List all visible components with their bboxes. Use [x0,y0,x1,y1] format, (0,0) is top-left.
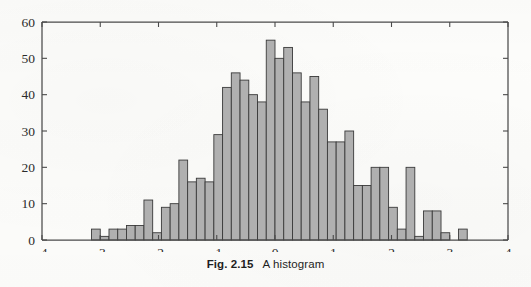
histogram-bar [362,186,371,241]
histogram-bar [92,229,101,240]
histogram-bar [327,142,336,240]
histogram-bar [144,200,153,240]
histogram-bars [92,40,468,240]
histogram-bar [319,109,328,240]
histogram-bar [223,87,232,240]
x-tick-label: 4 [505,245,512,252]
histogram-bar [214,135,223,240]
x-tick-label: -4 [36,245,47,252]
y-tick-label: 40 [22,87,36,102]
histogram-bar [170,204,179,240]
histogram-bar [135,225,144,240]
x-tick-label: 1 [330,245,337,252]
histogram-bar [161,207,170,240]
figure-caption: Fig. 2.15A histogram [0,258,531,270]
y-tick-label: 0 [28,233,35,248]
histogram-bar [336,142,345,240]
histogram-bar [249,95,258,240]
histogram-bar [118,229,127,240]
histogram-plot-area: -4-3-2-1012340102030405060 [0,0,531,252]
histogram-bar [389,207,398,240]
histogram-bar [275,58,284,240]
histogram-bar [354,186,363,241]
histogram-bar [458,229,467,240]
y-tick-label: 50 [22,51,36,66]
histogram-bar [258,102,267,240]
histogram-bar [205,182,214,240]
y-tick-label: 20 [22,160,36,175]
x-tick-label: 0 [272,245,279,252]
histogram-svg: -4-3-2-1012340102030405060 [0,0,531,252]
histogram-bar [424,211,433,240]
histogram-bar [126,225,135,240]
histogram-bar [441,233,450,240]
histogram-bar [179,160,188,240]
y-tick-label: 30 [22,124,36,139]
histogram-bar [188,182,197,240]
histogram-bar [292,73,301,240]
x-tick-label: 3 [446,245,453,252]
x-tick-label: 2 [388,245,395,252]
histogram-bar [380,167,389,240]
y-tick-label: 60 [22,15,36,30]
figure-page: -4-3-2-1012340102030405060 Fig. 2.15A hi… [0,0,531,287]
y-tick-label: 10 [22,196,36,211]
figure-number: Fig. 2.15 [207,258,254,270]
histogram-bar [240,80,249,240]
histogram-bar [266,40,275,240]
histogram-bar [231,73,240,240]
histogram-bar [301,102,310,240]
histogram-bar [284,47,293,240]
x-tick-label: -3 [95,245,106,252]
x-tick-label: -1 [211,245,222,252]
histogram-bar [397,229,406,240]
histogram-bar [432,211,441,240]
histogram-bar [310,77,319,241]
figure-caption-text: A histogram [263,258,325,270]
histogram-bar [371,167,380,240]
histogram-bar [345,131,354,240]
histogram-bar [109,229,118,240]
histogram-bar [196,178,205,240]
x-tick-label: -2 [153,245,164,252]
histogram-bar [153,233,162,240]
histogram-bar [406,167,415,240]
